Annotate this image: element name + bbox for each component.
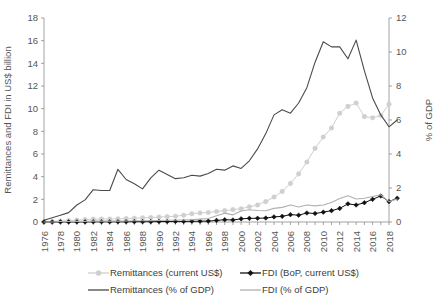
x-tick-label: 2018 [384,231,395,252]
series-marker [313,211,318,216]
x-tick-label: 2004 [269,231,280,252]
series-marker [296,213,301,218]
y-tick-label-left: 8 [33,126,38,137]
series-marker [140,219,145,224]
series-marker [190,211,195,216]
x-tick-label: 1990 [154,231,165,252]
axes-group: 0246810121416180246810121976197819801982… [2,12,434,252]
y-tick-label-left: 16 [27,35,38,46]
series-marker [263,216,268,221]
x-tick-label: 1976 [39,231,50,252]
series-marker [165,214,170,219]
series-marker [346,202,351,207]
series-line-2 [44,196,397,222]
series-marker [354,101,359,106]
series-marker [354,203,359,208]
y-axis-title-left: Remittances and FDI in US$ billion [2,46,13,193]
series-marker [321,135,326,140]
series-marker [148,219,153,224]
y-tick-label-left: 12 [27,80,38,91]
x-tick-label: 2000 [236,231,247,252]
legend-item-label[interactable]: Remittances (current US$) [110,267,222,278]
series-marker [313,146,318,151]
legend-swatch-diamond-icon [248,270,254,276]
series-marker [288,181,293,186]
series-marker [346,104,351,109]
series-marker [329,126,334,131]
series-marker [362,114,367,119]
x-tick-label: 1978 [55,231,66,252]
chart-svg: 0246810121416180246810121976197819801982… [0,0,441,305]
series-marker [255,216,260,221]
series-marker [272,195,277,200]
series-marker [231,207,236,212]
y-tick-label-left: 14 [27,58,38,69]
series-marker [305,211,310,216]
x-tick-label: 2002 [252,231,263,252]
series-line-1 [44,40,397,220]
series-marker [362,200,367,205]
series-marker [239,217,244,222]
series-marker [288,212,293,217]
y-axis-title-right: % of GDP [423,99,434,141]
x-tick-label: 2016 [367,231,378,252]
series-marker [214,209,219,214]
chart-container: 0246810121416180246810121976197819801982… [0,0,441,305]
x-tick-label: 1980 [71,231,82,252]
y-tick-label-right: 2 [396,182,401,193]
legend-item-label[interactable]: FDI (% of GDP) [262,284,329,295]
y-tick-label-right: 0 [396,216,401,227]
series-marker [280,214,285,219]
series-marker [247,216,252,221]
legend-swatch-circle-icon [96,270,101,275]
series-marker [222,217,227,222]
y-tick-label-right: 12 [396,12,407,23]
x-tick-label: 1996 [203,231,214,252]
series-marker [296,172,301,177]
x-tick-label: 2010 [318,231,329,252]
series-marker [255,203,260,208]
x-tick-label: 2006 [285,231,296,252]
legend-item-label[interactable]: Remittances (% of GDP) [110,284,214,295]
series-marker [247,205,252,210]
y-tick-label-right: 4 [396,148,401,159]
x-tick-label: 1992 [170,231,181,252]
x-tick-label: 1984 [104,231,115,252]
series-marker [321,210,326,215]
series-marker [272,215,277,220]
x-tick-label: 1982 [88,231,99,252]
legend-group: Remittances (current US$)FDI (BoP, curre… [88,267,359,295]
series-group [42,40,400,224]
y-tick-label-left: 4 [33,171,38,182]
x-tick-label: 1986 [121,231,132,252]
series-marker [337,111,342,116]
series-marker [181,213,186,218]
series-marker [337,206,342,211]
series-line-0 [44,103,389,222]
series-marker [370,197,375,202]
y-tick-label-left: 18 [27,12,38,23]
series-marker [231,218,236,223]
series-marker [280,189,285,194]
series-line-3 [44,195,397,222]
series-marker [206,219,211,224]
series-marker [222,208,227,213]
series-marker [387,102,392,107]
x-tick-label: 1988 [137,231,148,252]
series-marker [198,211,203,216]
y-tick-label-left: 2 [33,194,38,205]
series-marker [305,160,310,165]
series-marker [173,214,178,219]
x-tick-label: 2014 [351,231,362,252]
y-tick-label-left: 6 [33,148,38,159]
legend-item-label[interactable]: FDI (BoP, current US$) [262,267,359,278]
series-marker [329,208,334,213]
x-tick-label: 1994 [186,231,197,252]
x-tick-label: 2012 [334,231,345,252]
series-marker [206,210,211,215]
y-tick-label-left: 10 [27,103,38,114]
y-tick-label-right: 10 [396,46,407,57]
x-tick-label: 2008 [301,231,312,252]
series-marker [370,115,375,120]
y-tick-label-right: 8 [396,80,401,91]
